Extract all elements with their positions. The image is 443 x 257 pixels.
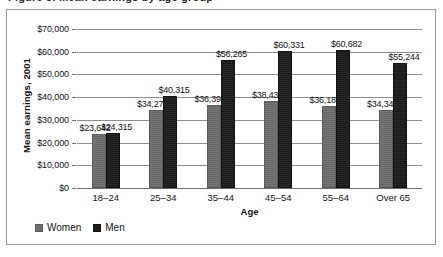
plot-wrapper: Mean earnings, 2001 $0$10,000$20,000$30,… — [7, 10, 435, 244]
y-axis-tick-label: $10,000 — [37, 160, 69, 170]
y-axis-tick-label: $60,000 — [37, 47, 69, 57]
bar-value-label: $56,265 — [216, 49, 247, 59]
bar-value-label: $60,331 — [273, 40, 304, 50]
bar-women-18–24[interactable]: $23,642 — [92, 134, 106, 188]
bar-men-45–54[interactable]: $60,331 — [278, 51, 292, 188]
bar-men-55–64[interactable]: $60,682 — [336, 50, 350, 188]
bar-women-over-65[interactable]: $34,343 — [379, 110, 393, 188]
y-axis-tick-mark — [72, 97, 76, 98]
bar-women-25–34[interactable]: $34,273 — [149, 110, 163, 188]
bar-pair: $36,189$60,682 — [307, 29, 365, 188]
bar-women-45–54[interactable]: $38,439 — [264, 101, 278, 188]
legend-swatch-women-icon — [35, 224, 43, 232]
bar-group: $23,642$24,31518–24 — [77, 29, 135, 188]
bar-group: $34,343$55,244Over 65 — [365, 29, 423, 188]
bar-group: $36,395$56,26535–44 — [192, 29, 250, 188]
plot-area: $0$10,000$20,000$30,000$40,000$50,000$60… — [77, 29, 422, 188]
bar-value-label: $40,315 — [158, 85, 189, 95]
figure-frame: Mean earnings, 2001 $0$10,000$20,000$30,… — [6, 9, 436, 245]
bar-value-label: $55,244 — [388, 52, 419, 62]
y-axis-tick-label: $50,000 — [37, 69, 69, 79]
bar-group: $36,189$60,68255–64 — [307, 29, 365, 188]
x-axis-tick-label: 35–44 — [208, 192, 234, 203]
bar-men-18–24[interactable]: $24,315 — [106, 133, 120, 188]
bar-pair: $34,343$55,244 — [365, 29, 423, 188]
y-axis-title: Mean earnings, 2001 — [19, 30, 33, 180]
y-axis-tick-mark — [72, 188, 76, 189]
bar-value-label: $60,682 — [331, 39, 362, 49]
y-axis-title-text: Mean earnings, 2001 — [21, 58, 32, 153]
bar-pair: $38,439$60,331 — [250, 29, 308, 188]
y-axis-tick-mark — [72, 120, 76, 121]
x-axis-tick-label: Over 65 — [376, 192, 410, 203]
x-axis-tick-label: 55–64 — [323, 192, 349, 203]
chart-screenshot: Figure 3. Mean earnings by age group Mea… — [0, 0, 443, 257]
x-axis-tick-label: 25–34 — [150, 192, 176, 203]
bar-pair: $23,642$24,315 — [77, 29, 135, 188]
y-axis-tick-label: $40,000 — [37, 92, 69, 102]
bar-men-25–34[interactable]: $40,315 — [163, 96, 177, 188]
chart-legend: Women Men — [35, 222, 125, 233]
y-axis-tick-mark — [72, 52, 76, 53]
y-axis-tick-label: $70,000 — [37, 24, 69, 34]
bar-men-over-65[interactable]: $55,244 — [393, 63, 407, 188]
above-figure-caption: Figure 3. Mean earnings by age group — [8, 0, 213, 3]
x-axis-title: Age — [77, 206, 422, 217]
legend-swatch-men-icon — [93, 224, 101, 232]
legend-label-women: Women — [47, 222, 81, 233]
y-axis-tick-mark — [72, 29, 76, 30]
y-axis-tick-mark — [72, 165, 76, 166]
legend-label-men: Men — [105, 222, 124, 233]
bar-pair: $34,273$40,315 — [135, 29, 193, 188]
x-axis-tick-label: 18–24 — [93, 192, 119, 203]
bar-women-35–44[interactable]: $36,395 — [207, 105, 221, 188]
y-axis-tick-mark — [72, 143, 76, 144]
bar-value-label: $24,315 — [101, 122, 132, 132]
bar-group: $38,439$60,33145–54 — [250, 29, 308, 188]
legend-item-men[interactable]: Men — [93, 222, 124, 233]
y-axis-tick-label: $30,000 — [37, 115, 69, 125]
x-axis-tick-label: 45–54 — [265, 192, 291, 203]
bar-men-35–44[interactable]: $56,265 — [221, 60, 235, 188]
legend-item-women[interactable]: Women — [35, 222, 81, 233]
y-axis-tick-label: $0 — [59, 183, 69, 193]
y-axis-tick-mark — [72, 74, 76, 75]
y-axis-tick-label: $20,000 — [37, 138, 69, 148]
gridline — [77, 188, 422, 189]
bar-pair: $36,395$56,265 — [192, 29, 250, 188]
bar-group: $34,273$40,31525–34 — [135, 29, 193, 188]
bar-women-55–64[interactable]: $36,189 — [322, 106, 336, 188]
